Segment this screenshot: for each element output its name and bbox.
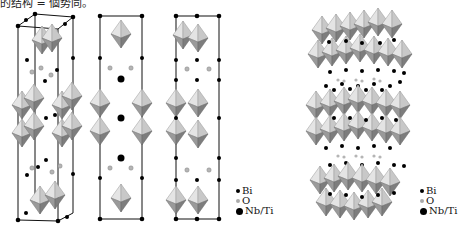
bi-atom-icon bbox=[236, 189, 240, 193]
nbti-atom-icon bbox=[236, 208, 243, 215]
bi-atom-icon bbox=[420, 189, 424, 193]
legend-right: Bi O Nb/Ti bbox=[420, 186, 457, 216]
oxygen-atom-icon bbox=[236, 199, 240, 203]
legend-item-nbti: Nb/Ti bbox=[420, 206, 457, 216]
legend-left: Bi O Nb/Ti bbox=[236, 186, 273, 216]
cell-3-octahedra bbox=[166, 21, 208, 214]
oxygen-atom-icon bbox=[420, 199, 424, 203]
legend-item-nbti: Nb/Ti bbox=[236, 206, 273, 216]
nbti-atom-icon bbox=[420, 208, 427, 215]
layered-3d-structure bbox=[306, 8, 412, 220]
crystal-structure-figure bbox=[0, 0, 462, 230]
